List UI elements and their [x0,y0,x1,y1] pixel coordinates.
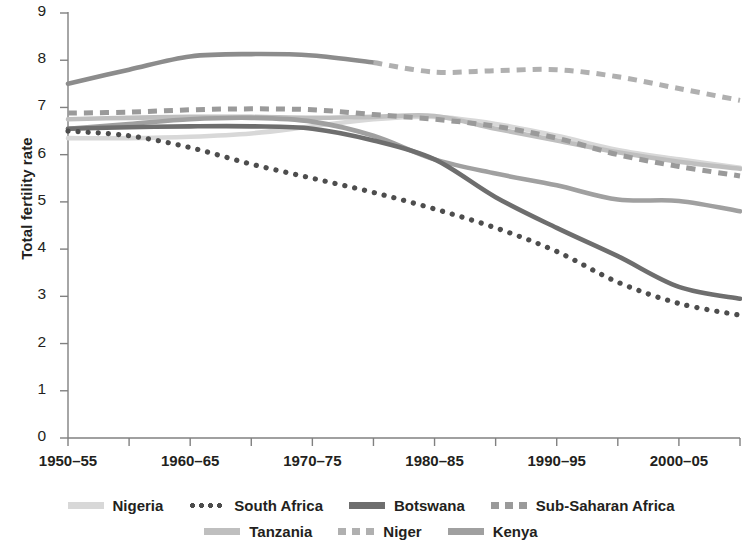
legend-swatch-sub-saharan-africa-icon [491,502,527,509]
legend-item-nigeria[interactable]: Nigeria [68,497,164,514]
legend-item-south-africa[interactable]: South Africa [189,497,323,514]
y-tick-label: 7 [12,96,46,114]
y-tick-label: 5 [12,191,46,209]
legend-item-botswana[interactable]: Botswana [349,497,465,514]
y-tick-label: 4 [12,238,46,256]
legend-label-botswana: Botswana [394,497,465,514]
legend-label-nigeria: Nigeria [113,497,164,514]
y-tick-label: 2 [12,333,46,351]
y-tick-label: 6 [12,144,46,162]
legend-row: TanzaniaNigerKenya [0,518,742,544]
chart-legend: NigeriaSouth AfricaBotswanaSub-Saharan A… [0,492,742,544]
legend-label-sub-saharan-africa: Sub-Saharan Africa [536,497,675,514]
chart-figure: Total fertility rate 9876543210 1950–551… [0,0,742,550]
x-tick-label: 1950–55 [26,452,110,469]
line-chart-plot [0,0,742,492]
legend-swatch-tanzania-icon [204,528,240,535]
series-group [68,54,740,315]
legend-label-kenya: Kenya [493,523,538,540]
x-tick-label: 1990–95 [515,452,599,469]
legend-row: NigeriaSouth AfricaBotswanaSub-Saharan A… [0,492,742,518]
legend-swatch-nigeria-icon [68,502,104,509]
x-tick-label: 2000–05 [637,452,721,469]
legend-swatch-niger-icon [338,528,374,535]
series-line-kenya [68,118,740,212]
x-tick-label: 1970–75 [270,452,354,469]
axes-group [60,12,740,446]
legend-swatch-south-africa-icon [189,502,225,509]
y-tick-label: 0 [12,427,46,445]
legend-item-kenya[interactable]: Kenya [448,523,538,540]
series-line-south-africa [68,131,740,315]
x-tick-label: 1980–85 [393,452,477,469]
y-tick-label: 8 [12,49,46,67]
y-tick-label: 1 [12,380,46,398]
legend-label-south-africa: South Africa [234,497,323,514]
legend-label-tanzania: Tanzania [249,523,312,540]
series-line-niger-dashed-segment [373,63,740,101]
legend-item-tanzania[interactable]: Tanzania [204,523,312,540]
series-line-niger-solid-segment [68,54,373,84]
legend-label-niger: Niger [383,523,421,540]
legend-swatch-botswana-icon [349,502,385,509]
legend-swatch-kenya-icon [448,528,484,535]
legend-item-niger[interactable]: Niger [338,523,421,540]
y-tick-label: 9 [12,2,46,20]
y-tick-label: 3 [12,285,46,303]
legend-item-sub-saharan-africa[interactable]: Sub-Saharan Africa [491,497,675,514]
x-tick-label: 1960–65 [148,452,232,469]
